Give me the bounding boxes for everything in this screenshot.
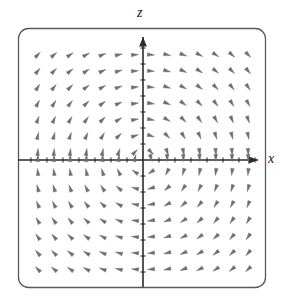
direction-field-figure: z x (0, 0, 284, 301)
z-axis-label: z (137, 6, 142, 20)
vector-field-canvas (0, 0, 284, 301)
x-axis-label: x (268, 152, 274, 166)
plot-frame (19, 29, 266, 288)
